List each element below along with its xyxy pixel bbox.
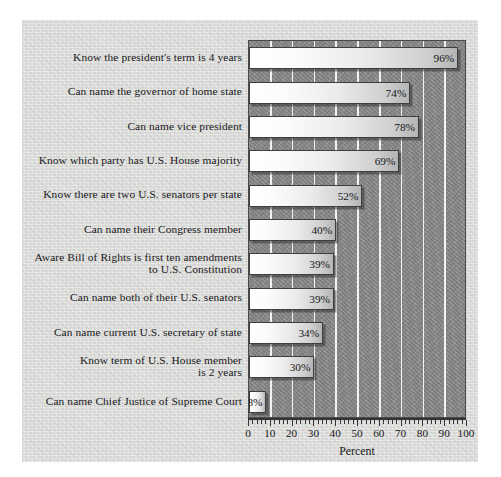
major-tick-100 [466, 420, 467, 426]
bar-value-label: 96% [434, 47, 455, 69]
x-tick-label: 50 [351, 427, 362, 439]
bar-row: 74% [249, 82, 410, 104]
minor-tick-52 [361, 420, 362, 424]
minor-tick-36 [326, 420, 327, 424]
minor-tick-58 [374, 420, 375, 424]
x-tick-label: 40 [330, 427, 341, 439]
minor-tick-74 [409, 420, 410, 424]
minor-tick-2 [252, 420, 253, 424]
minor-tick-14 [279, 420, 280, 424]
minor-tick-94 [453, 420, 454, 424]
minor-tick-88 [440, 420, 441, 424]
x-tick-label: 70 [395, 427, 406, 439]
bar-row: 52% [249, 185, 362, 207]
plot-area: 96%74%78%69%52%40%39%39%34%30%8% [248, 40, 466, 418]
minor-tick-92 [449, 420, 450, 424]
minor-tick-38 [331, 420, 332, 424]
minor-tick-76 [414, 420, 415, 424]
minor-tick-96 [457, 420, 458, 424]
bar-value-label: 30% [290, 356, 311, 378]
minor-tick-72 [405, 420, 406, 424]
minor-tick-6 [261, 420, 262, 424]
minor-tick-22 [296, 420, 297, 424]
major-tick-70 [401, 420, 402, 426]
x-tick-label: 80 [417, 427, 428, 439]
minor-tick-32 [318, 420, 319, 424]
minor-tick-86 [435, 420, 436, 424]
category-label: Know term of U.S. House member is 2 year… [26, 354, 242, 379]
minor-tick-82 [427, 420, 428, 424]
x-axis: Percent 0102030405060708090100 [248, 418, 466, 464]
major-tick-0 [248, 420, 249, 426]
x-tick-label: 30 [308, 427, 319, 439]
bar-row: 34% [249, 322, 323, 344]
bar-row: 39% [249, 253, 334, 275]
minor-tick-42 [340, 420, 341, 424]
bar-value-label: 39% [309, 288, 330, 310]
minor-tick-28 [309, 420, 310, 424]
minor-tick-68 [396, 420, 397, 424]
category-label: Aware Bill of Rights is first ten amendm… [26, 251, 242, 276]
bar-row: 69% [249, 150, 399, 172]
bar-value-label: 74% [386, 82, 407, 104]
minor-tick-62 [383, 420, 384, 424]
minor-tick-66 [392, 420, 393, 424]
major-tick-50 [357, 420, 358, 426]
bar [249, 47, 458, 69]
minor-tick-4 [257, 420, 258, 424]
minor-tick-54 [366, 420, 367, 424]
category-label: Can name vice president [26, 120, 242, 133]
category-label-column: Know the president's term is 4 yearsCan … [26, 40, 242, 418]
bar-row: 40% [249, 219, 336, 241]
x-tick-label: 20 [286, 427, 297, 439]
x-tick-label: 60 [373, 427, 384, 439]
chart-figure: Know the president's term is 4 yearsCan … [0, 0, 501, 477]
minor-tick-16 [283, 420, 284, 424]
bar-row: 39% [249, 288, 334, 310]
major-tick-40 [335, 420, 336, 426]
bar-row: 96% [249, 47, 458, 69]
x-tick-label: 10 [264, 427, 275, 439]
minor-tick-64 [388, 420, 389, 424]
category-label: Know which party has U.S. House majority [26, 154, 242, 167]
minor-tick-8 [265, 420, 266, 424]
bar-value-label: 40% [311, 219, 332, 241]
bar-value-label: 78% [394, 116, 415, 138]
bar-value-label: 69% [375, 150, 396, 172]
minor-tick-98 [462, 420, 463, 424]
minor-tick-48 [353, 420, 354, 424]
category-label: Can name both of their U.S. senators [26, 291, 242, 304]
gridline-80 [423, 41, 425, 417]
category-label: Can name the governor of home state [26, 85, 242, 98]
minor-tick-26 [305, 420, 306, 424]
minor-tick-12 [274, 420, 275, 424]
bar-value-label: 39% [309, 253, 330, 275]
major-tick-60 [379, 420, 380, 426]
minor-tick-18 [287, 420, 288, 424]
category-label: Know there are two U.S. senators per sta… [26, 188, 242, 201]
bar-row: 30% [249, 356, 314, 378]
category-label: Know the president's term is 4 years [26, 51, 242, 64]
major-tick-10 [270, 420, 271, 426]
x-tick-label: 100 [458, 427, 475, 439]
minor-tick-24 [300, 420, 301, 424]
minor-tick-84 [431, 420, 432, 424]
minor-tick-78 [418, 420, 419, 424]
category-label: Can name their Congress member [26, 223, 242, 236]
minor-tick-34 [322, 420, 323, 424]
bar-value-label: 34% [298, 322, 319, 344]
major-tick-30 [313, 420, 314, 426]
gridline-90 [444, 41, 446, 417]
major-tick-20 [292, 420, 293, 426]
major-tick-80 [422, 420, 423, 426]
x-tick-label: 90 [439, 427, 450, 439]
bar-row: 78% [249, 116, 419, 138]
major-tick-90 [444, 420, 445, 426]
bar-value-label: 8% [248, 391, 262, 413]
category-label: Can name current U.S. secretary of state [26, 326, 242, 339]
minor-tick-44 [344, 420, 345, 424]
x-axis-title: Percent [248, 444, 466, 459]
bar-value-label: 52% [338, 185, 359, 207]
category-label: Can name Chief Justice of Supreme Court [26, 395, 242, 408]
minor-tick-46 [348, 420, 349, 424]
